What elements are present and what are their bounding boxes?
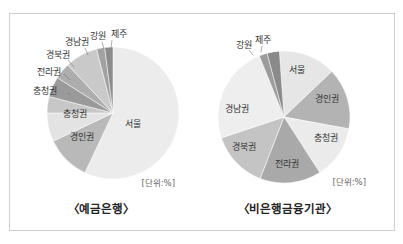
- left-chart-title: 〈예금은행〉: [68, 202, 134, 216]
- label-jeolla: 전라권: [37, 66, 61, 77]
- label-gyeongin: 경인권: [315, 93, 339, 104]
- label-gyeongnam: 경남권: [65, 36, 89, 47]
- left-unit-label: [단위:%]: [141, 178, 175, 188]
- charts-canvas: 서울 경인권 충청권 충청권 전라권 경북권 경남권 강원 제주 [단위:%] …: [0, 0, 403, 244]
- label-gangwon: 강원: [236, 40, 252, 50]
- label-gyeongnam: 경남권: [225, 103, 249, 114]
- label-seoul: 서울: [289, 65, 305, 75]
- right-unit-label: [단위:%]: [332, 177, 366, 187]
- label-jeju: 제주: [111, 29, 127, 39]
- right-chart-title: 〈비은행금융기관〉: [238, 202, 337, 216]
- label-chungcheong-inner: 충청권: [63, 108, 87, 119]
- label-gyeongbuk: 경북권: [46, 49, 70, 60]
- label-jeju: 제주: [255, 35, 271, 45]
- label-chungcheong: 충청권: [314, 132, 338, 143]
- label-chungcheong-outer: 충청권: [33, 85, 57, 96]
- label-gangwon: 강원: [90, 31, 106, 41]
- label-jeolla: 전라권: [275, 158, 299, 169]
- label-seoul: 서울: [125, 119, 141, 129]
- label-gyeongin: 경인권: [70, 131, 94, 142]
- label-gyeongbuk: 경북권: [232, 141, 256, 152]
